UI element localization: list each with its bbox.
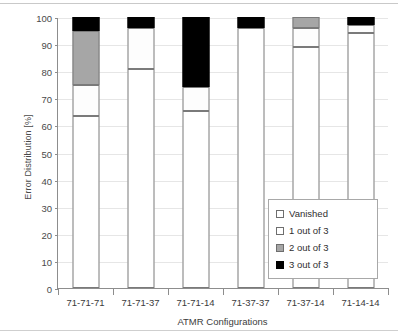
bar-segment[interactable] xyxy=(347,17,374,25)
legend-label: Vanished xyxy=(289,208,328,219)
bar-segment[interactable] xyxy=(127,69,154,289)
bar-segment[interactable] xyxy=(182,17,209,87)
x-tick-label: 71-37-37 xyxy=(231,297,269,308)
x-tick-label: 71-14-14 xyxy=(341,297,379,308)
stacked-bar-chart: Error Distribution [%] 01020304050607080… xyxy=(0,0,398,334)
y-tick-label: 70 xyxy=(41,94,52,105)
stacked-bar[interactable] xyxy=(72,18,99,288)
bar-segment[interactable] xyxy=(347,25,374,33)
y-tick-label: 50 xyxy=(41,148,52,159)
bar-segment[interactable] xyxy=(72,116,99,288)
y-tick-label: 40 xyxy=(41,175,52,186)
legend-swatch-icon xyxy=(276,244,284,252)
bar-segment[interactable] xyxy=(237,17,264,28)
legend-item[interactable]: 1 out of 3 xyxy=(276,222,371,239)
stacked-bar[interactable] xyxy=(237,18,264,288)
x-tick-mark xyxy=(278,288,279,295)
y-axis-title: Error Distribution [%] xyxy=(23,77,33,237)
x-tick-label: 71-71-14 xyxy=(176,297,214,308)
legend-swatch-icon xyxy=(276,261,284,269)
bar-slot xyxy=(58,18,113,288)
x-tick-mark xyxy=(333,288,334,295)
y-tick-label: 30 xyxy=(41,202,52,213)
y-tick-label: 60 xyxy=(41,121,52,132)
legend-item[interactable]: Vanished xyxy=(276,205,371,222)
bar-segment[interactable] xyxy=(182,111,209,289)
y-tick-label: 10 xyxy=(41,256,52,267)
bar-segment[interactable] xyxy=(72,17,99,31)
legend-label: 1 out of 3 xyxy=(289,225,329,236)
top-divider xyxy=(0,3,398,4)
y-tick-label: 100 xyxy=(36,13,52,24)
legend-label: 3 out of 3 xyxy=(289,259,329,270)
legend-item[interactable]: 3 out of 3 xyxy=(276,256,371,273)
bar-segment[interactable] xyxy=(72,31,99,85)
legend-label: 2 out of 3 xyxy=(289,242,329,253)
bar-segment[interactable] xyxy=(292,28,319,47)
x-tick-mark xyxy=(223,288,224,295)
x-tick-label: 71-71-71 xyxy=(66,297,104,308)
x-tick-label: 71-71-37 xyxy=(121,297,159,308)
x-axis-title: ATMR Configurations xyxy=(57,316,388,327)
bar-slot xyxy=(113,18,168,288)
stacked-bar[interactable] xyxy=(127,18,154,288)
bar-segment[interactable] xyxy=(182,87,209,110)
legend-item[interactable]: 2 out of 3 xyxy=(276,239,371,256)
y-tick-label: 0 xyxy=(47,284,52,295)
x-tick-label: 71-37-14 xyxy=(286,297,324,308)
chart-legend: Vanished1 out of 32 out of 33 out of 3 xyxy=(268,199,378,279)
bar-segment[interactable] xyxy=(127,17,154,28)
x-tick-mark xyxy=(58,288,59,295)
bar-segment[interactable] xyxy=(72,85,99,116)
x-tick-mark xyxy=(388,288,389,295)
y-tick-label: 20 xyxy=(41,229,52,240)
y-tick-label: 80 xyxy=(41,67,52,78)
legend-swatch-icon xyxy=(276,227,284,235)
x-tick-mark xyxy=(113,288,114,295)
x-tick-mark xyxy=(168,288,169,295)
legend-swatch-icon xyxy=(276,210,284,218)
bar-segment[interactable] xyxy=(127,28,154,69)
bottom-divider xyxy=(0,330,398,331)
bar-segment[interactable] xyxy=(292,17,319,28)
y-tick-label: 90 xyxy=(41,40,52,51)
bar-segment[interactable] xyxy=(237,28,264,288)
stacked-bar[interactable] xyxy=(182,18,209,288)
bar-slot xyxy=(168,18,223,288)
